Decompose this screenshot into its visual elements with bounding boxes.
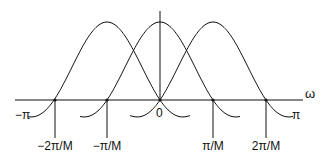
tick-label-neg-2pi-m: −2π/M — [37, 139, 72, 153]
lobe-neg-pi-m — [28, 22, 190, 117]
diagram-svg: ω −π π 0 −2π/M −π/M π/M 2π/M — [0, 0, 323, 159]
zero-crossing-dot — [211, 98, 214, 101]
zero-crossing-dot — [264, 98, 267, 101]
tick-label-pi-m: π/M — [202, 139, 224, 153]
zero-crossing-dot — [158, 98, 161, 101]
zero-crossing-dot — [53, 98, 56, 101]
zero-label: 0 — [156, 106, 163, 120]
pi-label: π — [292, 108, 300, 122]
neg-pi-label: −π — [15, 108, 30, 122]
omega-label: ω — [305, 86, 315, 101]
filter-bank-diagram: ω −π π 0 −2π/M −π/M π/M 2π/M — [0, 0, 323, 159]
tick-label-2pi-m: 2π/M — [252, 139, 280, 153]
tick-label-neg-pi-m: −π/M — [93, 139, 122, 153]
zero-crossing-dot — [105, 98, 108, 101]
lobe-pi-m — [130, 22, 293, 117]
